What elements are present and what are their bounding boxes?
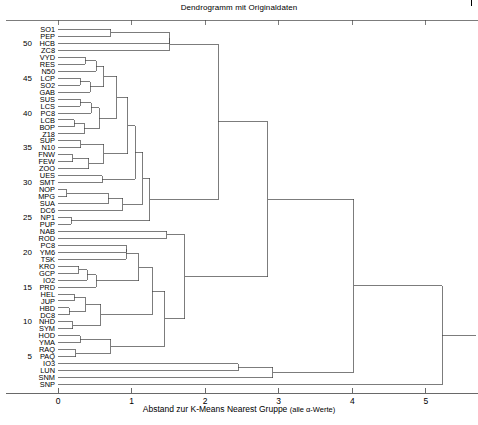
y-tick-label: 5 <box>28 352 33 361</box>
x-axis-title-main: Abstand zur K-Means Nearest Gruppe <box>143 404 288 414</box>
y-tick-label: 25 <box>23 213 32 222</box>
dendrogram-figure: Dendrogramm mit Originaldaten SO1PEPHCB5… <box>0 0 478 425</box>
leaf-label: SNP <box>40 380 55 389</box>
y-tick-label: 10 <box>23 317 32 326</box>
y-tick-label: 20 <box>23 248 32 257</box>
y-tick-label: 30 <box>23 178 32 187</box>
y-tick-label: 35 <box>23 143 32 152</box>
x-axis-title-paren: (alle α-Werte) <box>290 405 335 414</box>
y-tick-label: 15 <box>23 283 32 292</box>
x-axis-title: Abstand zur K-Means Nearest Gruppe (alle… <box>0 404 478 414</box>
y-tick-label: 45 <box>23 74 32 83</box>
dendrogram-plot: SO1PEPHCB50ZC8VYDRESN50LCP45SO2GABSUSLCS… <box>0 0 478 425</box>
y-tick-label: 50 <box>23 39 32 48</box>
y-tick-label: 40 <box>23 109 32 118</box>
